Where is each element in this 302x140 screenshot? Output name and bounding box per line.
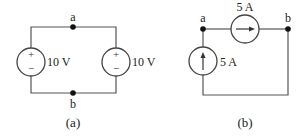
node-a-dot: [200, 26, 206, 32]
horizontal-source-value: 5 A: [236, 0, 253, 14]
plus-sign: +: [28, 48, 34, 60]
minus-sign: −: [28, 62, 34, 74]
node-b-dot: [285, 26, 291, 32]
node-a-label: a: [70, 10, 76, 24]
circuit-a: a b + − 10 V + − 10 V (a): [17, 10, 156, 130]
right-source-value: 10 V: [132, 55, 156, 69]
node-b-label: b: [285, 11, 291, 25]
circuit-diagrams: a b + − 10 V + − 10 V (a) a b 5 A: [0, 0, 302, 140]
current-source-horizontal: 5 A: [231, 0, 259, 43]
plus-sign: +: [113, 48, 119, 60]
voltage-source-right: + − 10 V: [102, 48, 156, 76]
node-b-dot: [70, 90, 76, 96]
node-a-label: a: [200, 11, 206, 25]
voltage-source-left: + − 10 V: [17, 48, 71, 76]
circuit-b: a b 5 A 5 A (b): [189, 0, 291, 130]
node-a-dot: [70, 24, 76, 30]
node-b-label: b: [70, 97, 76, 111]
current-source-vertical: 5 A: [189, 47, 237, 75]
top-wire-a: [31, 27, 116, 48]
left-source-value: 10 V: [47, 55, 71, 69]
minus-sign: −: [113, 62, 119, 74]
caption-a: (a): [66, 115, 80, 130]
caption-b: (b): [237, 115, 252, 130]
vertical-source-value: 5 A: [220, 55, 237, 69]
